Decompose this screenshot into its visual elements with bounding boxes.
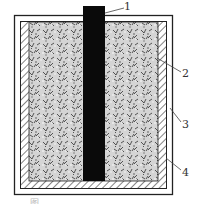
figure-caption: 图 … … … … … <box>30 196 120 204</box>
diagram-canvas <box>0 0 197 204</box>
callout-label-4: 4 <box>182 167 189 178</box>
callout-label-1: 1 <box>124 1 131 12</box>
callout-label-3: 3 <box>182 119 189 130</box>
central-electrode <box>83 6 105 181</box>
leader-line-1 <box>105 8 124 13</box>
callout-label-2: 2 <box>182 68 189 79</box>
